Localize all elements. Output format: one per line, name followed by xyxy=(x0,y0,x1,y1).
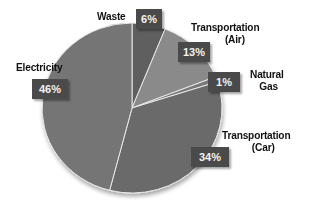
label-transport-car-line2: (Car) xyxy=(222,141,290,153)
label-transport-car-line1: Transportation xyxy=(222,129,290,141)
pct-waste: 6% xyxy=(136,9,162,29)
label-natural-gas: Natural Gas xyxy=(250,68,284,92)
pct-transport-car: 34% xyxy=(191,147,229,167)
label-natural-gas-line1: Natural xyxy=(250,68,284,80)
pct-natural-gas: 1% xyxy=(208,72,240,92)
label-transport-car: Transportation (Car) xyxy=(222,129,290,153)
label-natural-gas-line2: Gas xyxy=(250,80,284,92)
pct-transport-air: 13% xyxy=(178,42,210,62)
pie-chart xyxy=(0,0,316,200)
pct-electricity: 46% xyxy=(32,79,68,99)
label-transport-air-line1: Transportation xyxy=(191,21,259,33)
label-waste: Waste xyxy=(97,10,126,22)
label-electricity: Electricity xyxy=(16,61,62,73)
